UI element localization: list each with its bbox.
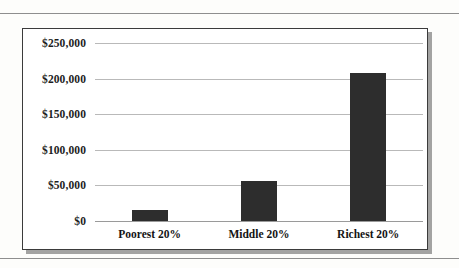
bar-group-middle: Middle 20% <box>204 43 313 221</box>
plot-area: $250,000 $200,000 $150,000 $100,000 $50,… <box>95 43 423 221</box>
y-axis-label-50000: $50,000 <box>48 179 86 191</box>
gridline-baseline-0: $0 <box>95 221 423 222</box>
bar-middle-20[interactable] <box>241 181 277 221</box>
y-axis-label-250000: $250,000 <box>42 37 86 49</box>
bar-group-richest: Richest 20% <box>314 43 423 221</box>
x-axis-label-middle: Middle 20% <box>228 228 289 240</box>
bar-series: Poorest 20% Middle 20% Richest 20% <box>95 43 423 221</box>
page-rule-top <box>0 13 459 14</box>
bar-richest-20[interactable] <box>350 73 386 221</box>
y-axis-label-150000: $150,000 <box>42 108 86 120</box>
y-axis-label-100000: $100,000 <box>42 144 86 156</box>
x-axis-label-poorest: Poorest 20% <box>118 228 181 240</box>
bar-poorest-20[interactable] <box>132 210 168 221</box>
page-rule-bottom <box>0 258 459 259</box>
bar-group-poorest: Poorest 20% <box>95 43 204 221</box>
y-axis-label-200000: $200,000 <box>42 73 86 85</box>
x-axis-label-richest: Richest 20% <box>337 228 399 240</box>
chart-frame: $250,000 $200,000 $150,000 $100,000 $50,… <box>22 28 428 250</box>
y-axis-label-0: $0 <box>74 215 86 227</box>
